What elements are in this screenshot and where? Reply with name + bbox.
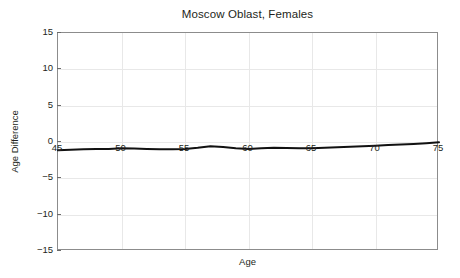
x-axis-ticks: 45505560657075 xyxy=(57,142,438,156)
x-tick-label: 70 xyxy=(355,142,395,153)
chart-figure: Moscow Oblast, Females 151050−5−10−15 45… xyxy=(0,0,460,278)
x-tick-label: 65 xyxy=(291,142,331,153)
x-tick-label: 55 xyxy=(164,142,204,153)
y-axis-label-wrap: Age Difference xyxy=(0,32,16,250)
x-tick-label: 45 xyxy=(37,142,77,153)
y-tick-mark xyxy=(57,105,61,106)
y-tick-mark xyxy=(57,68,61,69)
x-tick-label: 60 xyxy=(228,142,268,153)
y-tick-mark xyxy=(57,32,61,33)
y-tick-mark xyxy=(57,214,61,215)
plot-area xyxy=(57,32,438,250)
y-axis-label: Age Difference xyxy=(9,33,20,251)
y-tick-mark xyxy=(57,250,61,251)
y-tick-mark xyxy=(57,141,61,142)
chart-title: Moscow Oblast, Females xyxy=(57,8,438,20)
x-axis-label: Age xyxy=(57,256,438,267)
x-tick-label: 75 xyxy=(418,142,458,153)
x-tick-label: 50 xyxy=(101,142,141,153)
y-tick-mark xyxy=(57,177,61,178)
